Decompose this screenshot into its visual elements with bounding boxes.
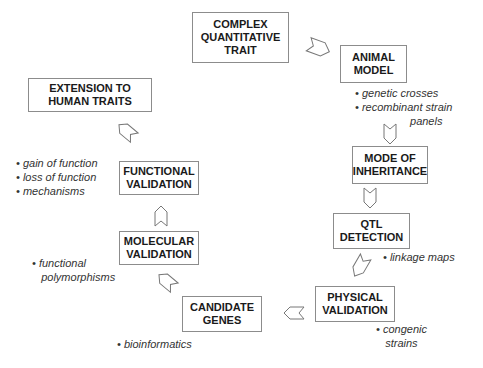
arrow-right-icon <box>307 40 331 56</box>
arrow-down-icon <box>383 123 397 145</box>
note-functional-validation: • gain of function • loss of function • … <box>16 156 98 198</box>
node-complex-quantitative-trait: COMPLEX QUANTITATIVE TRAIT <box>192 12 289 63</box>
node-animal-model: ANIMAL MODEL <box>340 45 407 83</box>
note-molecular-validation: • functional polymorphisms <box>32 256 115 284</box>
note-qtl-detection: • linkage maps <box>383 250 455 264</box>
node-qtl-detection: QTL DETECTION <box>333 213 410 249</box>
node-physical-validation: PHYSICAL VALIDATION <box>315 286 395 322</box>
arrow-down-left-icon <box>353 255 369 281</box>
arrow-up-icon <box>154 205 168 227</box>
note-candidate-genes: • bioinformatics <box>117 337 192 351</box>
arrow-down-icon <box>363 187 377 209</box>
note-physical-validation: • congenic strains <box>376 322 427 350</box>
node-extension-to-human-traits: EXTENSION TO HUMAN TRAITS <box>28 78 152 112</box>
arrow-up-left-icon <box>155 274 177 292</box>
node-functional-validation: FUNCTIONAL VALIDATION <box>119 161 199 195</box>
node-candidate-genes: CANDIDATE GENES <box>182 296 262 332</box>
node-mode-of-inheritance: MODE OF INHERITANCE <box>352 146 428 184</box>
arrow-up-left-icon <box>115 124 137 142</box>
arrow-left-icon <box>283 306 305 320</box>
note-animal-model: • genetic crosses • recombinant strain p… <box>355 86 452 128</box>
node-molecular-validation: MOLECULAR VALIDATION <box>119 231 199 265</box>
